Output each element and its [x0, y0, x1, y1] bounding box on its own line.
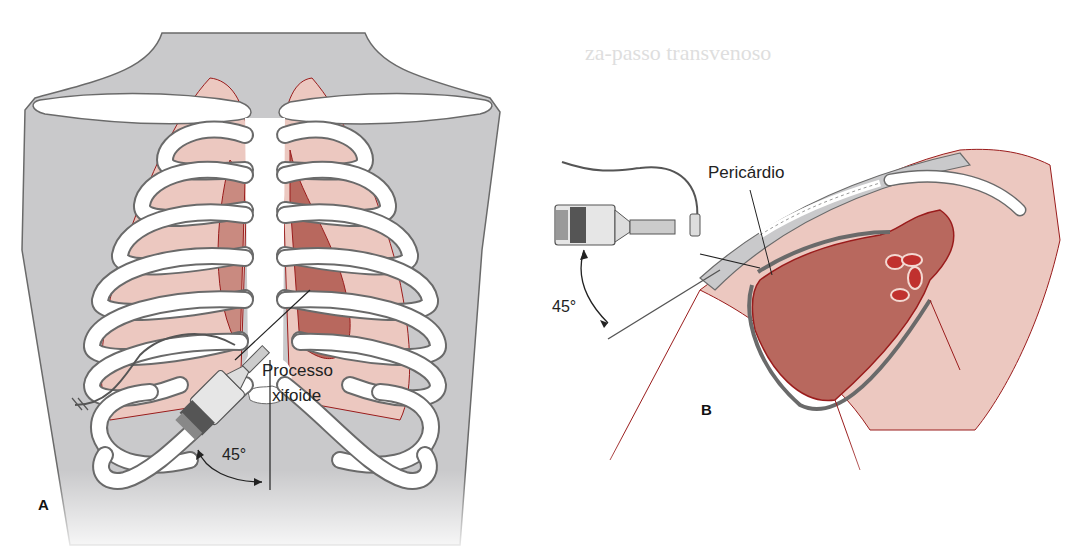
label-xifoide: xifoide [272, 386, 321, 405]
skin-line-b [608, 270, 720, 339]
panel-a: Processo xifoide 45° A [20, 33, 510, 560]
label-processo: Processo [262, 361, 333, 380]
panel-letter-a: A [38, 496, 49, 513]
panel-b: Pericárdio 45° B [552, 149, 1089, 560]
pericardiocentesis-figure: Processo xifoide 45° A [0, 0, 1089, 560]
label-angle-b: 45° [552, 298, 576, 315]
label-angle-a: 45° [222, 446, 246, 463]
syringe-b [555, 205, 700, 245]
angle-arc-b [581, 250, 608, 323]
label-pericardio: Pericárdio [708, 163, 785, 182]
panel-letter-b: B [701, 401, 712, 418]
